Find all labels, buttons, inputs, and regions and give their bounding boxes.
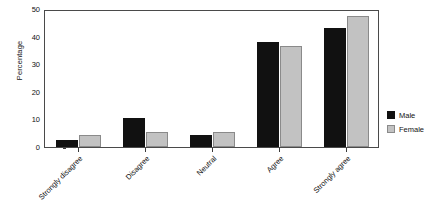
y-tick-label: 30 xyxy=(24,61,40,69)
x-tick-mark xyxy=(78,148,79,152)
x-tick-mark xyxy=(279,148,280,152)
plot-area xyxy=(45,11,378,147)
legend-item-male[interactable]: Male xyxy=(387,108,424,122)
bar-female-strongly-agree xyxy=(347,16,369,147)
bar-male-agree xyxy=(257,42,279,147)
x-tick-mark xyxy=(212,148,213,152)
y-tick-label: 10 xyxy=(24,116,40,124)
x-tick-mark xyxy=(145,148,146,152)
y-axis-ticks: 01020304050 xyxy=(22,0,40,218)
y-tick-label: 0 xyxy=(24,144,40,152)
y-tick-label: 20 xyxy=(24,89,40,97)
bar-group xyxy=(257,11,302,147)
bar-female-strongly-disagree xyxy=(79,135,101,147)
y-tick-label: 40 xyxy=(24,34,40,42)
bar-male-disagree xyxy=(123,118,145,147)
bar-female-disagree xyxy=(146,132,168,147)
legend-swatch-icon xyxy=(387,125,395,133)
bar-male-strongly-disagree xyxy=(56,140,78,147)
x-axis-label: Strongly disagree xyxy=(0,154,84,218)
plot-area-frame xyxy=(44,10,379,148)
bar-male-neutral xyxy=(190,135,212,147)
bar-female-agree xyxy=(280,46,302,147)
bar-group xyxy=(56,11,101,147)
bar-female-neutral xyxy=(213,132,235,147)
bar-group xyxy=(324,11,369,147)
y-tick-label: 50 xyxy=(24,6,40,14)
x-tick-mark xyxy=(346,148,347,152)
bar-group xyxy=(123,11,168,147)
bar-group xyxy=(190,11,235,147)
y-tick-mark xyxy=(63,148,66,149)
legend-swatch-icon xyxy=(387,111,395,119)
bar-chart: Percentage 01020304050 Strongly disagree… xyxy=(0,0,438,218)
bar-male-strongly-agree xyxy=(324,28,346,147)
legend-label: Male xyxy=(399,111,415,120)
legend-item-female[interactable]: Female xyxy=(387,122,424,136)
chart-legend: MaleFemale xyxy=(387,108,424,136)
legend-label: Female xyxy=(399,125,424,134)
